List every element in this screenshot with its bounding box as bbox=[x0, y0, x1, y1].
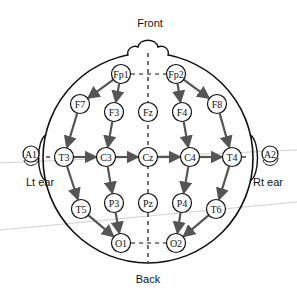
arrow-t3-t5 bbox=[67, 166, 78, 199]
electrode-t6[interactable]: T6 bbox=[207, 200, 226, 219]
arrow-t5-o1 bbox=[88, 215, 113, 236]
electrode-f4[interactable]: F4 bbox=[173, 103, 192, 122]
arrow-t4-t6 bbox=[219, 166, 229, 199]
electrode-o2[interactable]: O2 bbox=[167, 234, 186, 253]
arrow-fp1-f7 bbox=[88, 80, 113, 98]
electrode-label: C4 bbox=[184, 152, 196, 163]
electrode-t4[interactable]: T4 bbox=[223, 148, 242, 167]
electrode-label: T4 bbox=[226, 152, 237, 163]
electrode-fp2[interactable]: Fp2 bbox=[167, 65, 186, 84]
left-ear-label: Lt ear bbox=[26, 176, 54, 188]
arrow-f8-t4 bbox=[220, 113, 230, 147]
electrode-a1[interactable]: A1 bbox=[23, 146, 39, 165]
arrow-f7-t3 bbox=[67, 113, 77, 147]
electrode-t3[interactable]: T3 bbox=[55, 148, 74, 167]
electrode-p3[interactable]: P3 bbox=[105, 194, 124, 213]
electrode-c4[interactable]: C4 bbox=[181, 148, 200, 167]
arrow-fp2-f8 bbox=[184, 80, 209, 98]
electrode-p4[interactable]: P4 bbox=[173, 194, 192, 213]
electrode-f8[interactable]: F8 bbox=[208, 95, 227, 114]
electrode-fz[interactable]: Fz bbox=[139, 103, 158, 122]
electrode-f3[interactable]: F3 bbox=[105, 103, 124, 122]
electrode-fp1[interactable]: Fp1 bbox=[112, 65, 131, 84]
electrode-cz[interactable]: Cz bbox=[139, 148, 158, 167]
electrode-label: P3 bbox=[109, 198, 120, 209]
front-label: Front bbox=[137, 17, 163, 29]
electrode-label: C3 bbox=[100, 152, 112, 163]
electrode-c3[interactable]: C3 bbox=[97, 148, 116, 167]
back-label: Back bbox=[136, 273, 161, 285]
right-ear-label: Rt ear bbox=[253, 176, 283, 188]
electrode-label: F8 bbox=[212, 99, 223, 110]
arrow-f3-c3 bbox=[108, 121, 112, 146]
electrode-label: F7 bbox=[75, 99, 86, 110]
electrode-a2[interactable]: A2 bbox=[262, 146, 278, 165]
electrode-label: A1 bbox=[25, 149, 37, 160]
arrow-p4-o2 bbox=[178, 212, 181, 232]
arrow-fp2-f4 bbox=[177, 83, 180, 101]
electrode-label: O1 bbox=[115, 238, 127, 249]
electrode-label: A2 bbox=[264, 149, 276, 160]
electrode-f7[interactable]: F7 bbox=[71, 95, 90, 114]
electrode-label: Cz bbox=[142, 152, 154, 163]
arrow-p3-o1 bbox=[116, 212, 120, 232]
electrode-label: T3 bbox=[58, 152, 69, 163]
arrow-f4-c4 bbox=[184, 121, 188, 146]
electrode-t5[interactable]: T5 bbox=[72, 200, 91, 219]
arrow-fp1-f3 bbox=[116, 83, 119, 101]
electrode-label: T5 bbox=[75, 204, 86, 215]
electrode-label: O2 bbox=[170, 238, 182, 249]
electrode-label: F4 bbox=[177, 107, 188, 118]
arrow-c4-p4 bbox=[184, 166, 189, 192]
arrow-c3-p3 bbox=[108, 166, 113, 192]
arrow-t6-o2 bbox=[184, 215, 209, 236]
electrode-label: Fz bbox=[143, 107, 154, 118]
electrode-label: Fp2 bbox=[168, 69, 184, 80]
electrode-label: F3 bbox=[109, 107, 120, 118]
eeg-10-20-montage-diagram: Fp1Fp2F7F3FzF4F8T3C3CzC4T4T5P3PzP4T6O1O2… bbox=[0, 0, 297, 297]
electrode-label: Fp1 bbox=[113, 69, 129, 80]
electrode-pz[interactable]: Pz bbox=[139, 194, 158, 213]
electrode-label: Pz bbox=[143, 198, 154, 209]
electrode-o1[interactable]: O1 bbox=[112, 234, 131, 253]
electrode-label: P4 bbox=[177, 198, 188, 209]
electrode-label: T6 bbox=[210, 204, 221, 215]
